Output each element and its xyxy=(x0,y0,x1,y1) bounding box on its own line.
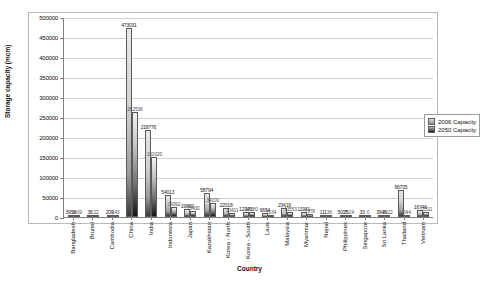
bar-group: 11138 xyxy=(316,18,335,217)
bar-value-label: 5534 xyxy=(266,210,276,215)
bar-value-label: 13553 xyxy=(284,207,297,212)
y-axis-tick-label: 200000 xyxy=(39,135,58,141)
bar-value-label: 24392 xyxy=(167,202,180,207)
x-axis-tick xyxy=(384,216,385,220)
bar-value-label: 66705 xyxy=(394,185,407,190)
y-axis-tick-label: 50000 xyxy=(42,195,58,201)
x-axis-tick-label: Singapore xyxy=(362,222,368,249)
x-axis-tick-label: Bangladesh xyxy=(70,222,76,254)
x-axis-tick xyxy=(131,216,132,220)
y-axis-tick-label: 350000 xyxy=(39,75,58,81)
x-axis-tick xyxy=(170,216,171,220)
x-axis-label-cell: Korea - South xyxy=(238,220,257,264)
x-axis-label-cell: India xyxy=(141,220,160,264)
x-axis-tick xyxy=(73,216,74,220)
y-axis-tick xyxy=(60,218,64,219)
bar-group: 209143 xyxy=(103,18,122,217)
y-axis-tick-label: 150000 xyxy=(39,155,58,161)
bar-value-label: 1409 xyxy=(72,210,82,215)
bar-chart: Storage capacity (mcm) 05000010000015000… xyxy=(0,0,499,281)
x-axis-tick xyxy=(326,216,327,220)
bar-value-label: 33 xyxy=(359,210,364,215)
x-axis-tick-label: Philippines xyxy=(342,222,348,251)
y-axis-title: Storage capacity (mcm) xyxy=(4,45,11,118)
legend-swatch-icon-2006 xyxy=(428,118,435,125)
bar-s2050: 544 xyxy=(404,215,410,217)
bar-group: 1986915430 xyxy=(181,18,200,217)
x-axis-tick-label: Malaysia xyxy=(284,222,290,246)
bar-group: 119317278 xyxy=(297,18,316,217)
x-axis-label-cell: Nepal xyxy=(316,220,335,264)
bar-value-label: 0 xyxy=(367,210,370,215)
bar-value-label: 544 xyxy=(403,210,411,215)
legend-swatch-icon-2050 xyxy=(428,126,435,133)
y-axis-tick-label: 300000 xyxy=(39,95,58,101)
x-axis-label-cell: Myanmar xyxy=(297,220,316,264)
bar-value-label: 11380 xyxy=(245,207,258,212)
bar-group: 39462022 xyxy=(375,18,394,217)
bar-value-label: 38 xyxy=(88,210,93,215)
bar-group: 66705544 xyxy=(394,18,413,217)
bar-s2050: 7278 xyxy=(307,214,313,217)
bar-s2050: 11380 xyxy=(249,212,255,217)
y-axis-tick-label: 100000 xyxy=(39,175,58,181)
plot-area: 0500001000001500002000002500003000003500… xyxy=(63,18,433,218)
bar-s2050: 2524 xyxy=(346,215,352,217)
bar-s2050: 143 xyxy=(113,215,119,217)
x-axis-tick-label: Indonesia xyxy=(167,222,173,248)
bar-s2050: 22 xyxy=(93,215,99,217)
x-axis-tick-label: Cambodia xyxy=(109,222,115,249)
bar-group: 2201810411 xyxy=(219,18,238,217)
x-axis-tick-label: Brunei xyxy=(89,222,95,239)
bar-value-label: 7278 xyxy=(305,209,315,214)
x-axis-label-cell: Vietnam xyxy=(413,220,432,264)
x-axis-title: Country xyxy=(0,265,499,272)
bar-value-label: 262536 xyxy=(127,107,143,112)
x-axis-label-cell: Brunei xyxy=(82,220,101,264)
bar-group: 39561409 xyxy=(64,18,83,217)
x-axis-tick-label: Japan xyxy=(187,222,193,238)
bar-group: 50052524 xyxy=(336,18,355,217)
bar-group: 218776150020 xyxy=(142,18,161,217)
bar-value-label: 11511 xyxy=(420,207,432,212)
bar-s2050: 2022 xyxy=(384,215,390,217)
x-axis-label-cell: Japan xyxy=(180,220,199,264)
x-axis-tick-label: Vietnam xyxy=(420,222,426,244)
bar-value-label: 10411 xyxy=(226,208,239,213)
x-axis-tick-label: India xyxy=(148,222,154,235)
chart-legend: 2006 Capacity 2050 Capacity xyxy=(424,114,480,137)
bar-group: 2341913553 xyxy=(278,18,297,217)
bars-layer: 3956140938222091434730312625362187761500… xyxy=(64,18,433,217)
bar-value-label: 473031 xyxy=(121,23,137,28)
bar-value-label: 38 xyxy=(327,210,332,215)
bar-s2050: 1409 xyxy=(74,215,80,217)
x-axis-tick-labels: BangladeshBruneiCambodiaChinaIndiaIndone… xyxy=(63,220,433,264)
x-axis-label-cell: Singapore xyxy=(355,220,374,264)
bar-group: 473031262536 xyxy=(122,18,141,217)
x-axis-label-cell: Cambodia xyxy=(102,220,121,264)
bar-s2050: 10411 xyxy=(229,213,235,217)
x-axis-tick xyxy=(267,216,268,220)
x-axis-tick xyxy=(209,216,210,220)
x-axis-tick-label: Thailand xyxy=(401,222,407,245)
legend-item-2006: 2006 Capacity xyxy=(428,118,476,125)
bar-s2050: 34100 xyxy=(210,203,216,217)
y-axis-tick-label: 250000 xyxy=(39,115,58,121)
bar-value-label: 15430 xyxy=(187,206,200,211)
bar-group: 5401324392 xyxy=(161,18,180,217)
x-axis-tick xyxy=(112,216,113,220)
x-axis-tick xyxy=(190,216,191,220)
x-axis-label-cell: China xyxy=(121,220,140,264)
x-axis-tick-label: Korea - North xyxy=(225,222,231,258)
bar-value-label: 218776 xyxy=(141,125,157,130)
x-axis-tick xyxy=(306,216,307,220)
x-axis-label-cell: Sri Lanka xyxy=(375,220,394,264)
bar-value-label: 2524 xyxy=(343,210,353,215)
x-axis-tick-label: Korea - South xyxy=(245,222,251,259)
x-axis-label-cell: Philippines xyxy=(336,220,355,264)
x-axis-label-cell: Korea - North xyxy=(219,220,238,264)
x-axis-tick xyxy=(345,216,346,220)
x-axis-tick-label: Nepal xyxy=(323,222,329,238)
legend-item-2050: 2050 Capacity xyxy=(428,126,476,133)
x-axis-label-cell: Malaysia xyxy=(277,220,296,264)
